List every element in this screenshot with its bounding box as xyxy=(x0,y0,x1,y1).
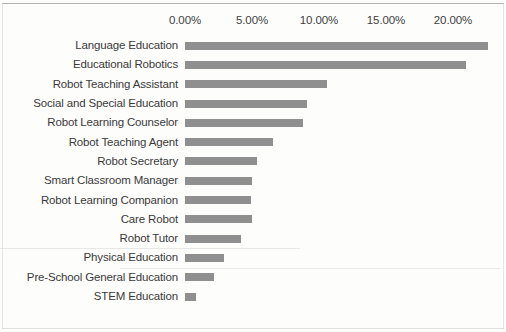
category-label: Language Education xyxy=(0,39,182,52)
bar-chart: 0.00%5.00%10.00%15.00%20.00% Language Ed… xyxy=(0,0,506,332)
bar-track xyxy=(182,268,506,287)
bar[interactable] xyxy=(185,138,273,146)
bar-track xyxy=(182,94,506,113)
bar[interactable] xyxy=(185,119,303,127)
chart-bottom-border xyxy=(2,328,504,329)
chart-row: Physical Education xyxy=(0,248,506,267)
category-label: STEM Education xyxy=(0,290,182,303)
chart-row: Robot Teaching Agent xyxy=(0,132,506,151)
category-label: Robot Teaching Assistant xyxy=(0,78,182,91)
category-label: Pre-School General Education xyxy=(0,271,182,284)
bar-track xyxy=(182,113,506,132)
bar[interactable] xyxy=(185,215,252,223)
bar[interactable] xyxy=(185,100,307,108)
bar[interactable] xyxy=(185,235,241,243)
bar[interactable] xyxy=(185,80,327,88)
category-label: Care Robot xyxy=(0,213,182,226)
chart-row: Pre-School General Education xyxy=(0,268,506,287)
bar[interactable] xyxy=(185,157,257,165)
chart-row: Robot Secretary xyxy=(0,152,506,171)
bar[interactable] xyxy=(185,196,251,204)
chart-top-border xyxy=(2,3,504,4)
bar-track xyxy=(182,229,506,248)
x-tick-label: 10.00% xyxy=(300,13,338,27)
category-label: Physical Education xyxy=(0,251,182,264)
x-tick-label: 0.00% xyxy=(169,13,201,27)
bar[interactable] xyxy=(185,254,224,262)
bar-track xyxy=(182,152,506,171)
chart-row: Robot Tutor xyxy=(0,229,506,248)
bar-track xyxy=(182,190,506,209)
bar[interactable] xyxy=(185,42,488,50)
bar[interactable] xyxy=(185,273,214,281)
bar-track xyxy=(182,210,506,229)
chart-row: Robot Teaching Assistant xyxy=(0,75,506,94)
bar-track xyxy=(182,75,506,94)
bar-track xyxy=(182,132,506,151)
bar[interactable] xyxy=(185,177,252,185)
category-label: Robot Tutor xyxy=(0,232,182,245)
bar-track xyxy=(182,171,506,190)
bar[interactable] xyxy=(185,61,466,69)
bar-track xyxy=(182,287,506,306)
x-tick-label: 5.00% xyxy=(236,13,268,27)
category-label: Robot Learning Counselor xyxy=(0,116,182,129)
plot-area: Language EducationEducational RoboticsRo… xyxy=(0,36,506,326)
chart-row: Language Education xyxy=(0,36,506,55)
chart-row: Smart Classroom Manager xyxy=(0,171,506,190)
category-label: Robot Learning Companion xyxy=(0,194,182,207)
x-axis-tick-labels: 0.00%5.00%10.00%15.00%20.00% xyxy=(0,13,506,29)
chart-row: Care Robot xyxy=(0,210,506,229)
bar[interactable] xyxy=(185,293,196,301)
chart-row: Robot Learning Counselor xyxy=(0,113,506,132)
category-label: Social and Special Education xyxy=(0,97,182,110)
category-label: Robot Teaching Agent xyxy=(0,136,182,149)
bar-track xyxy=(182,36,506,55)
x-tick-label: 20.00% xyxy=(434,13,472,27)
bar-track xyxy=(182,55,506,74)
chart-row: Social and Special Education xyxy=(0,94,506,113)
category-label: Robot Secretary xyxy=(0,155,182,168)
bar-track xyxy=(182,248,506,267)
chart-row: Educational Robotics xyxy=(0,55,506,74)
x-tick-label: 15.00% xyxy=(367,13,405,27)
chart-row: Robot Learning Companion xyxy=(0,190,506,209)
chart-row: STEM Education xyxy=(0,287,506,306)
category-label: Smart Classroom Manager xyxy=(0,174,182,187)
category-label: Educational Robotics xyxy=(0,58,182,71)
